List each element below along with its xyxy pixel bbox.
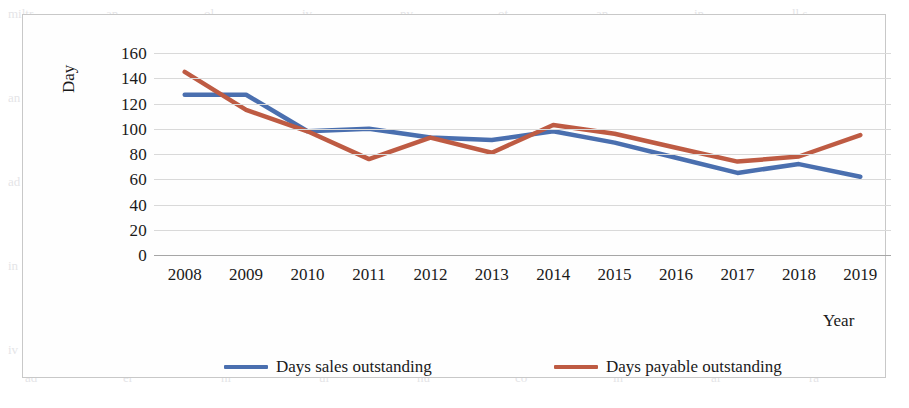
legend-swatch-icon	[554, 365, 598, 369]
x-tick-2013: 2013	[475, 265, 509, 284]
gridline-40	[154, 205, 891, 206]
gridline-100	[154, 129, 891, 130]
x-axis-tick-labels: 2008200920102011201220132014201520162017…	[154, 265, 891, 289]
legend-item-1[interactable]: Days payable outstanding	[554, 357, 782, 377]
x-tick-2017: 2017	[721, 265, 755, 284]
chart-container: Day 160140120100806040200 20082009201020…	[22, 14, 886, 378]
legend-label: Days sales outstanding	[276, 357, 432, 377]
gridline-60	[154, 179, 891, 180]
y-tick-40: 40	[87, 197, 147, 214]
gridline-120	[154, 104, 891, 105]
legend-swatch-icon	[224, 365, 268, 369]
x-tick-2010: 2010	[291, 265, 325, 284]
x-tick-2011: 2011	[352, 265, 385, 284]
y-tick-140: 140	[87, 70, 147, 87]
background-bleed-text: iv	[8, 342, 18, 358]
y-tick-80: 80	[87, 146, 147, 163]
x-tick-2019: 2019	[843, 265, 877, 284]
y-tick-0: 0	[87, 247, 147, 264]
plot-area	[154, 53, 891, 255]
x-tick-2009: 2009	[229, 265, 263, 284]
gridline-160	[154, 53, 891, 54]
y-tick-120: 120	[87, 96, 147, 113]
gridline-140	[154, 78, 891, 79]
x-tick-2014: 2014	[536, 265, 570, 284]
x-axis-title: Year	[823, 311, 854, 331]
series-line-days-sales-outstanding	[185, 95, 861, 177]
legend-label: Days payable outstanding	[606, 357, 782, 377]
background-bleed-text: in	[8, 258, 18, 274]
gridline-80	[154, 154, 891, 155]
x-tick-2018: 2018	[782, 265, 816, 284]
y-tick-100: 100	[87, 121, 147, 138]
y-tick-160: 160	[87, 45, 147, 62]
legend-item-0[interactable]: Days sales outstanding	[224, 357, 432, 377]
x-axis-baseline	[154, 255, 891, 256]
x-tick-2015: 2015	[598, 265, 632, 284]
chart-legend: Days sales outstandingDays payable outst…	[154, 357, 854, 381]
y-axis-tick-labels: 160140120100806040200	[83, 39, 147, 269]
gridline-20	[154, 230, 891, 231]
background-bleed-text: an	[8, 90, 20, 106]
x-tick-2016: 2016	[659, 265, 693, 284]
y-tick-20: 20	[87, 222, 147, 239]
x-tick-2012: 2012	[413, 265, 447, 284]
y-tick-60: 60	[87, 171, 147, 188]
y-axis-title: Day	[59, 65, 79, 93]
background-bleed-text: ad	[8, 174, 20, 190]
x-tick-2008: 2008	[168, 265, 202, 284]
